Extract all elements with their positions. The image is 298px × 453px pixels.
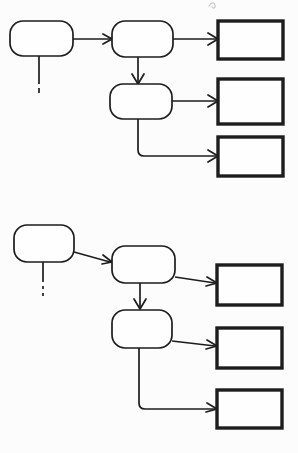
diagram-canvas xyxy=(0,0,298,453)
flow-group-top xyxy=(10,21,283,176)
flow-group-bottom xyxy=(14,225,282,428)
node-bottom-output-3[interactable] xyxy=(217,390,282,428)
node-bottom-stage-a[interactable] xyxy=(112,246,175,283)
node-top-output-2[interactable] xyxy=(218,79,283,124)
node-bottom-output-1[interactable] xyxy=(217,265,282,305)
node-top-source[interactable] xyxy=(10,21,73,56)
node-bottom-stage-b[interactable] xyxy=(112,310,172,348)
node-top-output-1[interactable] xyxy=(218,21,283,59)
node-bottom-output-2[interactable] xyxy=(217,328,282,368)
node-bottom-source[interactable] xyxy=(14,225,74,262)
edge-bottom-stage-b-to-output-3 xyxy=(139,348,215,409)
node-top-output-3[interactable] xyxy=(218,137,283,176)
cropped-handwriting-mark xyxy=(209,3,215,8)
edge-top-stage-b-to-output-3 xyxy=(138,119,216,156)
node-top-stage-b[interactable] xyxy=(110,84,172,119)
diagram-svg xyxy=(0,0,298,453)
node-top-stage-a[interactable] xyxy=(112,21,173,57)
